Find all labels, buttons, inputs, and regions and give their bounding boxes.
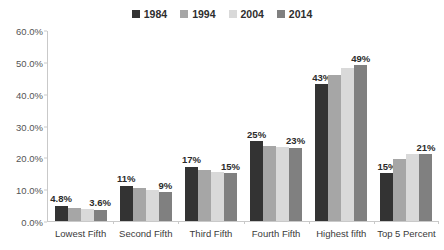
- bar-group: 11%9%: [113, 31, 178, 221]
- bar-slot: 4.8%: [55, 31, 68, 221]
- bar-value-label: 49%: [351, 54, 370, 64]
- bar[interactable]: [55, 206, 68, 221]
- y-axis-tick: 20.0%: [16, 153, 47, 164]
- y-axis-tick-label: 50.0%: [16, 57, 47, 68]
- bar[interactable]: [81, 209, 94, 221]
- bar-slot: 49%: [354, 31, 367, 221]
- bar[interactable]: [133, 188, 146, 221]
- y-axis-tick: 10.0%: [16, 185, 47, 196]
- bar-slot: 23%: [289, 31, 302, 221]
- bar[interactable]: [406, 154, 419, 221]
- x-axis-tick-mark: [178, 221, 179, 224]
- bar-slot: 17%: [185, 31, 198, 221]
- bar[interactable]: [120, 186, 133, 221]
- bar-group: 17%15%: [178, 31, 243, 221]
- plot-area: 0.0%10.0%20.0%30.0%40.0%50.0%60.0% 4.8%3…: [47, 31, 439, 222]
- y-axis-tick-mark: [44, 222, 47, 223]
- bar-slot: 9%: [159, 31, 172, 221]
- bar[interactable]: [94, 210, 107, 221]
- y-axis-tick-mark: [44, 62, 47, 63]
- legend-swatch-icon: [229, 10, 237, 18]
- bar[interactable]: [250, 141, 263, 221]
- y-axis-tick-label: 10.0%: [16, 185, 47, 196]
- bar-slot: [393, 31, 406, 221]
- y-axis-tick: 30.0%: [16, 121, 47, 132]
- bar[interactable]: [341, 68, 354, 221]
- bar-slot: [81, 31, 94, 221]
- y-axis-tick-label: 60.0%: [16, 26, 47, 37]
- bar-slot: [276, 31, 289, 221]
- y-axis-tick-label: 20.0%: [16, 153, 47, 164]
- bar-group: 43%49%: [309, 31, 374, 221]
- bar-value-label: 3.6%: [89, 198, 111, 208]
- y-axis-tick-mark: [44, 126, 47, 127]
- x-axis-tick-mark: [244, 221, 245, 224]
- bar[interactable]: [354, 65, 367, 221]
- x-axis-category-label: Highest fifth: [309, 228, 374, 239]
- legend-item-2014[interactable]: 2014: [277, 9, 312, 20]
- x-axis-tick-mark: [374, 221, 375, 224]
- bar-slot: 25%: [250, 31, 263, 221]
- bar-slot: [146, 31, 159, 221]
- x-axis-category-label: Top 5 Percent: [374, 228, 439, 239]
- legend-swatch-icon: [277, 10, 285, 18]
- bar-slot: [68, 31, 81, 221]
- bar[interactable]: [289, 148, 302, 221]
- x-axis-category-label: Third Fifth: [178, 228, 243, 239]
- x-axis-tick-mark: [309, 221, 310, 224]
- legend-swatch-icon: [180, 10, 188, 18]
- bar[interactable]: [159, 192, 172, 221]
- bar[interactable]: [419, 154, 432, 221]
- bar-slot: 15%: [224, 31, 237, 221]
- bar-slot: [263, 31, 276, 221]
- y-axis-tick: 50.0%: [16, 57, 47, 68]
- bar[interactable]: [224, 173, 237, 221]
- bar-value-label: 23%: [286, 136, 305, 146]
- bar-slot: 43%: [315, 31, 328, 221]
- bar[interactable]: [263, 146, 276, 221]
- bar-group: 15%21%: [374, 31, 439, 221]
- y-axis-tick-label: 40.0%: [16, 89, 47, 100]
- bar-group: 25%23%: [244, 31, 309, 221]
- bar[interactable]: [380, 173, 393, 221]
- y-axis-tick-mark: [44, 31, 47, 32]
- legend-item-2004[interactable]: 2004: [229, 9, 264, 20]
- bar-slot: [198, 31, 211, 221]
- bar[interactable]: [68, 208, 81, 221]
- bar[interactable]: [211, 172, 224, 221]
- legend-label: 2014: [289, 9, 312, 20]
- y-axis-tick-label: 30.0%: [16, 121, 47, 132]
- bar-group: 4.8%3.6%: [48, 31, 113, 221]
- bar[interactable]: [328, 75, 341, 221]
- bar-value-label: 9%: [158, 181, 172, 191]
- bar[interactable]: [198, 170, 211, 221]
- legend-item-1984[interactable]: 1984: [132, 9, 167, 20]
- bar-value-label: 15%: [221, 162, 240, 172]
- bar[interactable]: [185, 167, 198, 221]
- bar[interactable]: [315, 84, 328, 221]
- bar-slot: [133, 31, 146, 221]
- y-axis-tick-mark: [44, 94, 47, 95]
- bar-slot: [328, 31, 341, 221]
- y-axis-tick: 60.0%: [16, 26, 47, 37]
- bar[interactable]: [146, 190, 159, 221]
- bar-slot: 3.6%: [94, 31, 107, 221]
- bar-slot: 15%: [380, 31, 393, 221]
- x-axis-category-label: Lowest Fifth: [48, 228, 113, 239]
- chart-legend: 1984199420042014: [0, 9, 444, 20]
- bar-value-label: 21%: [416, 143, 435, 153]
- bar-slot: [211, 31, 224, 221]
- x-axis-category-label: Second Fifth: [113, 228, 178, 239]
- bar-chart: 1984199420042014 0.0%10.0%20.0%30.0%40.0…: [0, 0, 444, 250]
- x-axis-tick-mark: [438, 221, 439, 224]
- x-axis-category-label: Fourth Fifth: [244, 228, 309, 239]
- x-axis-tick-mark: [113, 221, 114, 224]
- y-axis-tick: 40.0%: [16, 89, 47, 100]
- bar[interactable]: [393, 159, 406, 221]
- legend-item-1994[interactable]: 1994: [180, 9, 215, 20]
- bar-slot: [406, 31, 419, 221]
- bar[interactable]: [276, 147, 289, 221]
- legend-label: 1994: [192, 9, 215, 20]
- x-axis-category-labels: Lowest FifthSecond FifthThird FifthFourt…: [48, 228, 439, 239]
- legend-label: 1984: [144, 9, 167, 20]
